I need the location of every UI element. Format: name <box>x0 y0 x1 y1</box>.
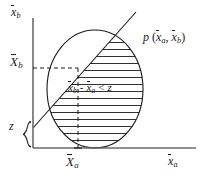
y-axis-label: xb <box>11 6 21 20</box>
y-axis-label-symbol: x <box>11 6 16 18</box>
inequality-label: xb-xa<z <box>68 82 112 95</box>
distribution-label-open-paren: ( <box>149 30 156 44</box>
inequality-bound: z <box>107 81 111 93</box>
y-tick-subscript: b <box>18 60 22 70</box>
inequality-left-subscript: b <box>73 86 77 95</box>
x-tick-subscript: a <box>74 160 78 170</box>
y-axis-tick-label: Xb <box>10 55 23 70</box>
x-axis-tick-label: Xa <box>66 155 79 170</box>
distribution-label-close-paren: ) <box>181 30 185 44</box>
distribution-arg2-symbol: x <box>172 31 177 43</box>
distribution-arg1-symbol: x <box>156 31 161 43</box>
x-axis-label: xa <box>168 155 178 169</box>
x-axis-label-symbol: x <box>168 155 173 167</box>
y-axis-label-subscript: b <box>16 11 20 20</box>
inequality-right-subscript: a <box>91 86 95 95</box>
x-tick-symbol: X <box>66 155 74 168</box>
x-axis-label-subscript: a <box>173 160 177 169</box>
inequality-right-symbol: x <box>86 82 91 93</box>
z-brace <box>23 122 31 147</box>
z-brace-label: z <box>9 120 14 132</box>
inequality-operator: - <box>80 81 84 93</box>
distribution-label: p (xa, xb) <box>143 31 185 45</box>
y-tick-symbol: X <box>10 55 18 68</box>
inequality-relation: < <box>98 81 104 93</box>
statistical-diagram-figure: xb xa Xb Xa z p (xa, xb) xb-xa<z <box>0 0 202 178</box>
inequality-left-symbol: x <box>68 82 73 93</box>
